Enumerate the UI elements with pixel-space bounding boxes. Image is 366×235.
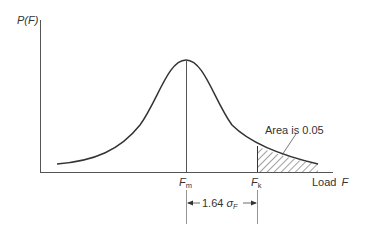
tail-area-hatched — [257, 146, 318, 172]
arrow-right-icon — [251, 201, 257, 206]
offset-label: 1.64σF — [202, 197, 238, 211]
arrow-left-icon — [187, 201, 193, 206]
area-annotation: Area is 0.05 — [265, 124, 324, 136]
fk-label: Fk — [251, 176, 262, 190]
x-axis-label: LoadF — [312, 176, 349, 188]
bell-curve — [57, 60, 318, 164]
area-leader-line — [282, 134, 296, 155]
y-axis-label: P(F) — [17, 14, 39, 26]
normal-distribution-diagram: P(F) Fm Fk LoadF 1.64σF Area is 0.05 — [0, 0, 366, 235]
fm-label: Fm — [179, 176, 192, 190]
